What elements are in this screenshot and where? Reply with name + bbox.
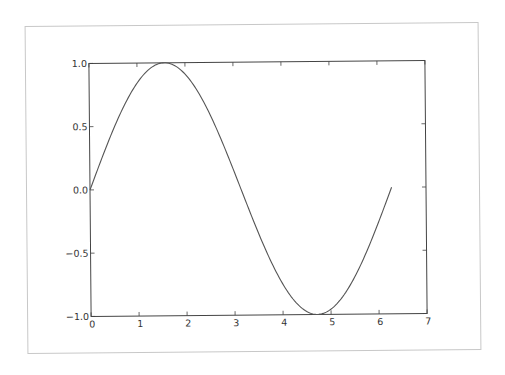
axes-frame <box>89 60 427 316</box>
x-tick-label: 0 <box>89 318 95 329</box>
x-tick-label: 1 <box>137 318 143 329</box>
sine-curve <box>89 61 393 317</box>
ticks <box>89 60 427 316</box>
y-tick-label: 1.0 <box>72 58 87 69</box>
y-tick-label: 0.0 <box>73 184 88 195</box>
y-tick-label: 0.5 <box>72 121 87 132</box>
x-tick-label: 3 <box>233 317 239 328</box>
axes <box>89 60 427 316</box>
x-tick-label: 2 <box>185 318 191 329</box>
x-tick-label: 7 <box>425 315 431 326</box>
x-tick-label: 6 <box>377 316 383 327</box>
figure: 012345671.00.50.0−0.5−1.0 <box>0 0 505 375</box>
x-tick-label: 5 <box>329 316 335 327</box>
sine-plot: 012345671.00.50.0−0.5−1.0 <box>0 0 505 375</box>
tick-labels: 012345671.00.50.0−0.5−1.0 <box>64 55 431 330</box>
x-tick-label: 4 <box>281 317 287 328</box>
y-tick-label: −0.5 <box>65 248 88 259</box>
y-tick-label: −1.0 <box>66 311 89 322</box>
